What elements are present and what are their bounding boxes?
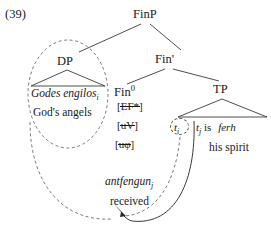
movement-arc-subject xyxy=(30,122,112,219)
node-label-dp: DP xyxy=(57,55,73,68)
dp-triangle xyxy=(31,70,105,86)
branch-finbar-to-fin0 xyxy=(127,69,165,84)
object-gloss: his spirit xyxy=(209,142,249,154)
verb-old-english: antfengunj xyxy=(105,176,153,188)
branch-finp-to-finbar xyxy=(150,24,181,50)
trace-verb-index: j xyxy=(199,127,201,136)
copula-text: is xyxy=(204,121,211,133)
trace-subject-label: ti xyxy=(174,122,179,133)
dp-index: i xyxy=(96,93,98,102)
fin-feature-ef-text: EF* xyxy=(121,100,139,112)
fin-head-superscript: 0 xyxy=(131,83,135,93)
tp-triangle xyxy=(178,99,267,117)
bracket-close-3: ] xyxy=(131,138,135,150)
node-label-fin-bar: Fin' xyxy=(155,53,174,66)
syntax-tree-figure: (39) FinP DP Fin' Fin0 TP Godes engilosi… xyxy=(0,0,271,243)
fin-feature-uphi: [uφ] xyxy=(115,139,134,150)
fin-feature-uv-text: uV xyxy=(121,119,134,131)
dp-gloss: God's angels xyxy=(33,107,92,119)
fin-feature-uphi-text: uφ xyxy=(119,138,131,150)
trace-subject-index: i xyxy=(177,127,179,136)
bracket-close-2: ] xyxy=(134,119,138,131)
node-label-finp: FinP xyxy=(133,8,157,21)
fin-head-text: Fin xyxy=(114,85,131,99)
trace-verb-label: tj xyxy=(196,121,201,133)
verb-index: j xyxy=(151,181,153,190)
branch-finp-to-dp xyxy=(79,24,141,52)
branch-finbar-to-tp xyxy=(173,69,219,81)
dp-old-english: Godes engilosi xyxy=(31,88,99,100)
example-number: (39) xyxy=(5,8,26,21)
object-old-english: ferh xyxy=(218,121,236,133)
verb-gloss: received xyxy=(110,196,149,208)
dp-old-english-text: Godes engilos xyxy=(31,87,96,99)
trace-subject-group: ti xyxy=(170,118,191,137)
verb-old-english-text: antfengun xyxy=(105,175,151,187)
tp-terminals: tj is ferh xyxy=(196,122,236,133)
node-label-tp: TP xyxy=(213,83,228,96)
node-label-fin-head: Fin0 xyxy=(114,86,135,99)
trace-subject-circle xyxy=(170,118,189,135)
fin-feature-ef: [EF*] xyxy=(117,101,143,112)
fin-feature-uv: [uV] xyxy=(117,120,138,131)
